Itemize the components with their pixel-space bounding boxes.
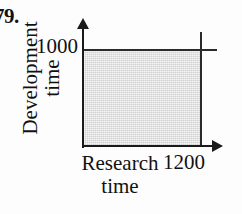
x-axis-line [83, 145, 214, 147]
linear-programming-figure: 79. 1000 1200 Development time Research … [0, 0, 242, 214]
horizontal-constraint-line [84, 49, 217, 51]
vertical-constraint-line [200, 32, 202, 146]
plot-area: 1000 1200 Development time Research time [0, 0, 242, 214]
y-axis-title-line-2: time [42, 59, 64, 96]
y-axis-arrow-icon [77, 18, 89, 29]
x-axis-tick-label: 1200 [163, 152, 205, 173]
y-axis-title-line-1: Development [20, 21, 42, 134]
y-axis-line [82, 27, 84, 148]
x-axis-arrow-icon [212, 140, 223, 152]
y-axis-title: Development time [19, 13, 65, 143]
x-axis-title: Research time [74, 152, 166, 197]
x-axis-title-line-2: time [74, 175, 166, 198]
shaded-feasible-region [84, 51, 201, 146]
x-axis-title-line-1: Research [74, 152, 166, 175]
